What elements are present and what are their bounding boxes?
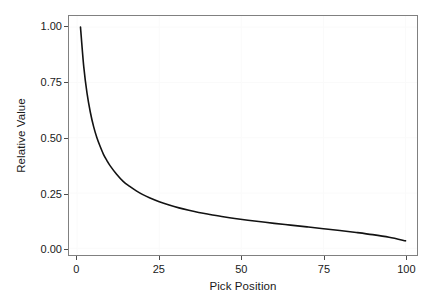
x-axis-tick-marks xyxy=(0,256,440,261)
x-axis-tick-mark xyxy=(241,256,242,260)
x-axis-tick-mark xyxy=(159,256,160,260)
x-axis-tick-labels: 0255075100 xyxy=(0,263,440,279)
x-axis-tick-mark xyxy=(406,256,407,260)
plot-panel xyxy=(68,15,418,256)
y-axis-tick-label: 0.00 xyxy=(28,243,62,255)
chart-figure: Relative Value 0.000.250.500.751.00 0255… xyxy=(0,0,440,304)
x-axis-tick-mark xyxy=(76,256,77,260)
y-axis-tick-label: 0.50 xyxy=(28,132,62,144)
x-axis-tick-label: 75 xyxy=(304,263,344,275)
y-axis-tick-label: 1.00 xyxy=(28,20,62,32)
x-axis-tick-label: 0 xyxy=(56,263,96,275)
x-axis-tick-mark xyxy=(324,256,325,260)
x-axis-title: Pick Position xyxy=(68,280,418,292)
x-axis-tick-label: 25 xyxy=(139,263,179,275)
data-curve-relative-value xyxy=(80,27,405,241)
y-axis-tick-label: 0.25 xyxy=(28,188,62,200)
x-axis-tick-label: 100 xyxy=(386,263,426,275)
y-axis-tick-label: 0.75 xyxy=(28,76,62,88)
plot-area xyxy=(69,16,417,255)
x-axis-tick-label: 50 xyxy=(221,263,261,275)
